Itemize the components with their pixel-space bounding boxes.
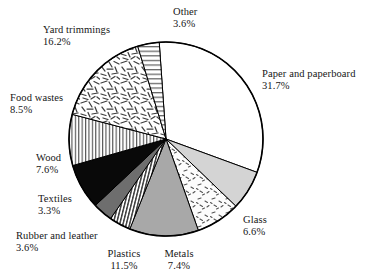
pie-label-rubber-and-leather: Rubber and leather3.6% (16, 230, 98, 254)
pie-label-value: 3.6% (173, 18, 197, 30)
pie-label-value: 8.5% (10, 104, 63, 116)
pie-label-name: Metals (164, 248, 193, 260)
pie-label-name: Plastics (108, 248, 141, 260)
pie-label-textiles: Textiles3.3% (38, 193, 72, 217)
pie-label-food-wastes: Food wastes8.5% (10, 92, 63, 116)
pie-label-name: Textiles (38, 193, 72, 205)
pie-label-name: Rubber and leather (16, 230, 98, 242)
pie-label-name: Other (173, 6, 197, 18)
pie-label-metals: Metals7.4% (164, 248, 193, 272)
pie-label-glass: Glass6.6% (243, 214, 267, 238)
pie-label-wood: Wood7.6% (36, 152, 61, 176)
pie-label-name: Yard trimmings (43, 24, 110, 36)
pie-label-value: 16.2% (43, 36, 110, 48)
pie-slice-group (69, 42, 263, 236)
pie-label-plastics: Plastics11.5% (108, 248, 141, 272)
pie-label-name: Glass (243, 214, 267, 226)
pie-label-value: 7.4% (164, 260, 193, 272)
pie-label-value: 3.3% (38, 205, 72, 217)
pie-label-value: 3.6% (16, 242, 98, 254)
pie-label-name: Paper and paperboard (262, 68, 356, 80)
pie-label-name: Food wastes (10, 92, 63, 104)
chart-page: Paper and paperboard31.7%Glass6.6%Metals… (0, 0, 375, 277)
pie-label-value: 11.5% (108, 260, 141, 272)
pie-label-paper-and-paperboard: Paper and paperboard31.7% (262, 68, 356, 92)
pie-label-other: Other3.6% (173, 6, 197, 30)
pie-label-value: 7.6% (36, 164, 61, 176)
pie-label-name: Wood (36, 152, 61, 164)
pie-label-value: 6.6% (243, 226, 267, 238)
pie-label-value: 31.7% (262, 80, 356, 92)
pie-label-yard-trimmings: Yard trimmings16.2% (43, 24, 110, 48)
